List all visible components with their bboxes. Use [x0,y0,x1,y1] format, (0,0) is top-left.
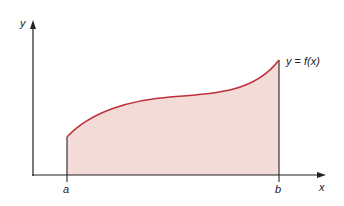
x-axis-arrow-icon [317,172,326,178]
function-label-equals: = [292,55,305,67]
function-label: y = f(x) [285,55,320,67]
lower-bound-label: a [63,183,69,195]
y-axis-label: y [19,17,27,29]
function-label-arg: (x) [307,55,320,67]
upper-bound-label: b [275,183,281,195]
x-axis-label: x [318,181,325,193]
area-under-curve-diagram: y x a b y = f(x) [0,0,344,206]
shaded-area-region [67,60,279,175]
y-axis-arrow-icon [30,20,36,29]
